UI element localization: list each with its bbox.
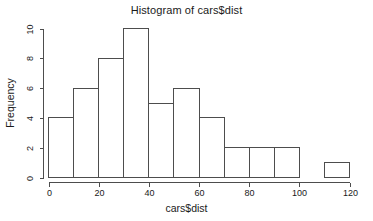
histogram-bar [74,88,99,177]
x-axis-tick-label: 40 [144,188,154,198]
x-axis-tick-label: 60 [194,188,204,198]
histogram-bar [224,148,249,178]
x-axis-tick-label: 80 [244,188,254,198]
y-axis-tick-label: 4 [25,116,35,121]
y-axis-ticks [40,30,44,179]
x-axis-tick-label: 20 [94,188,104,198]
histogram-bar [274,148,299,178]
histogram-bar [199,118,224,178]
x-axis-ticks [50,183,351,187]
histogram-bar [324,163,349,178]
y-axis-tick-label: 2 [25,146,35,151]
x-axis-tick-label: 100 [292,188,307,198]
y-axis-tick-label: 0 [25,176,35,181]
x-axis-tick-label: 0 [47,188,52,198]
y-axis-tick-label: 10 [25,24,35,34]
y-axis-tick-label: 8 [25,56,35,61]
histogram-bar [249,148,274,178]
x-axis-tick-labels: 020406080100120 [47,188,358,198]
histogram-bar [149,103,174,178]
histogram-bar [124,29,149,178]
histogram-bar [49,118,74,178]
y-axis-tick-labels: 0246810 [25,24,35,181]
histogram-bar [174,88,199,177]
x-axis-tick-label: 120 [343,188,358,198]
y-axis-title: Frequency [4,77,16,127]
histogram-plot-area: 020406080100120 0246810 cars$dist Freque… [0,0,373,221]
bars-group [49,29,350,178]
histogram-bar [99,58,124,177]
histogram-screenshot: Histogram of cars$dist 020406080100120 0… [0,0,373,221]
x-axis-title: cars$dist [165,202,207,214]
y-axis-tick-label: 6 [25,86,35,91]
